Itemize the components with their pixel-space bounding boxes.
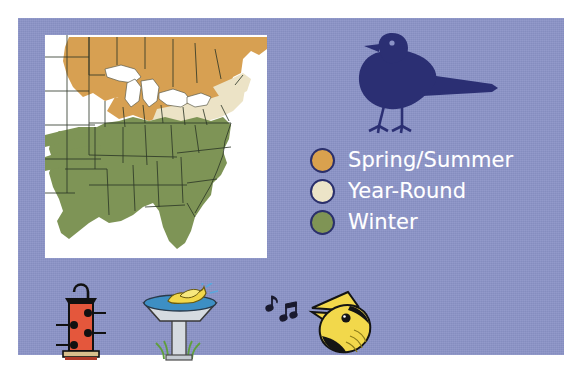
bird-feeder-icon bbox=[52, 276, 110, 364]
feeder-hanger bbox=[74, 285, 88, 299]
bird-bath-svg bbox=[130, 283, 230, 363]
legend-swatch-year-round bbox=[310, 179, 335, 204]
range-map-svg bbox=[45, 35, 267, 258]
bird-eye-icon bbox=[389, 40, 394, 45]
legend: Spring/Summer Year-Round Winter bbox=[310, 145, 560, 238]
bird-beak bbox=[364, 44, 380, 52]
music-note-icon bbox=[265, 296, 277, 312]
legend-item-year-round[interactable]: Year-Round bbox=[310, 176, 560, 206]
birdbath-foot bbox=[166, 355, 192, 360]
bird-legs bbox=[369, 106, 411, 133]
legend-swatch-winter bbox=[310, 210, 335, 235]
feeder-base bbox=[63, 351, 99, 357]
bird-silhouette-icon bbox=[350, 30, 500, 142]
bird-feeder-svg bbox=[52, 276, 110, 364]
legend-label-year-round: Year-Round bbox=[348, 181, 466, 202]
feeder-foot bbox=[65, 357, 97, 360]
bird-silhouette-svg bbox=[350, 30, 500, 142]
bird-bath-icon bbox=[130, 283, 230, 363]
bird-eye-highlight bbox=[343, 315, 346, 318]
figure-root: Spring/Summer Year-Round Winter bbox=[0, 0, 584, 372]
legend-label-winter: Winter bbox=[348, 212, 418, 233]
legend-item-winter[interactable]: Winter bbox=[310, 207, 560, 237]
legend-swatch-spring-summer bbox=[310, 148, 335, 173]
bird-eye-icon bbox=[341, 313, 350, 322]
singing-bird-icon bbox=[262, 290, 372, 362]
legend-label-spring-summer: Spring/Summer bbox=[348, 150, 513, 171]
birdbath-pedestal bbox=[172, 317, 186, 359]
singing-bird-svg bbox=[262, 290, 372, 362]
range-map bbox=[45, 35, 267, 258]
illustration-panel: Spring/Summer Year-Round Winter bbox=[18, 18, 564, 355]
music-note-pair-icon bbox=[279, 302, 298, 322]
legend-item-spring-summer[interactable]: Spring/Summer bbox=[310, 145, 560, 175]
